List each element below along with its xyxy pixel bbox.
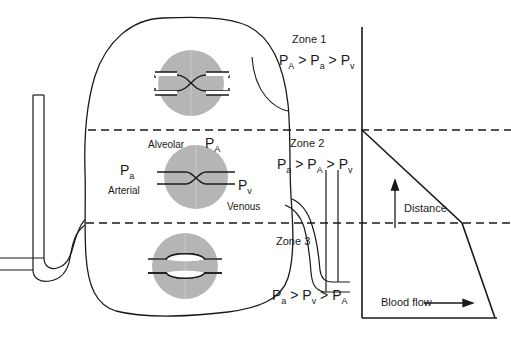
arterial-symbol-sub: a [129,171,134,181]
zone3-op-2: > [320,287,328,303]
zone1-op-2: > [329,52,337,68]
west-zones-figure: Zone 1 PA > Pa > Pv Zone 2 Pa > PA > Pv … [0,0,511,340]
venous-symbol-sub: v [247,186,252,196]
zone2-op-1: > [295,156,303,172]
graph-axes [362,27,497,318]
zone-2-title: Zone 2 [290,138,324,149]
zone1-term-1: PA [279,52,294,68]
zone-1-title: Zone 1 [292,34,326,45]
alveolar-symbol-base: P [205,135,214,151]
zone2-term-2: PA [307,156,322,172]
zone3-term-3: PA [332,287,347,303]
arterial-label: Arterial [108,186,140,196]
venous-outflow-tube [285,170,350,292]
distance-arrow [392,180,399,228]
alveolar-label: Alveolar [148,140,184,150]
venous-label: Venous [227,202,260,212]
arterial-reservoir-tube [0,95,96,281]
zone-3-title: Zone 3 [276,236,310,247]
zone-3-inequality: Pa > Pv > PA [272,288,348,306]
figure-canvas [0,0,511,340]
zone-1-inequality: PA > Pa > Pv [279,53,355,71]
venous-pressure-symbol: Pv [238,178,252,196]
arterial-pressure-symbol: Pa [120,163,134,181]
distance-axis-label: Distance [404,203,447,214]
zone-2-inequality: Pa > PA > Pv [277,157,353,175]
alveolar-pressure-symbol: PA [205,136,220,154]
arterial-symbol-base: P [120,162,129,178]
zone1-op-1: > [298,52,306,68]
zone2-term-1: Pa [277,156,291,172]
zone2-op-2: > [327,156,335,172]
zone2-term-3: Pv [339,156,353,172]
blood-flow-curve [362,130,495,318]
venous-symbol-base: P [238,177,247,193]
zone1-term-3: Pv [341,52,355,68]
zone3-op-1: > [290,287,298,303]
zone3-term-1: Pa [272,287,286,303]
zone3-term-2: Pv [302,287,316,303]
alveolar-symbol-sub: A [214,144,220,154]
zone1-term-2: Pa [310,52,324,68]
blood-flow-axis-label: Blood flow [381,297,432,308]
